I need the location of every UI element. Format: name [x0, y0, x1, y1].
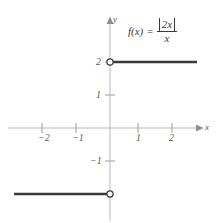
- formula-denominator: x: [162, 32, 171, 44]
- axes-group: [8, 17, 204, 222]
- open-endpoint-upper: [107, 59, 113, 65]
- y-tick-label--1: −1: [90, 156, 102, 166]
- absolute-value-bars: 2x: [159, 19, 175, 30]
- function-graph-figure: −2 −1 1 2 2 1 −1 x y f(x) = 2x x: [0, 0, 220, 223]
- y-axis-label: y: [113, 15, 117, 24]
- formula-numerator: 2x: [157, 19, 177, 31]
- x-axis-label: x: [205, 123, 209, 132]
- x-tick-label-1: 1: [136, 133, 141, 143]
- formula-equals-sign: =: [146, 26, 153, 37]
- y-tick-label-2: 2: [96, 57, 101, 67]
- function-formula: f(x) = 2x x: [128, 19, 177, 44]
- plot-canvas: [0, 0, 220, 223]
- y-tick-label-1: 1: [96, 90, 101, 100]
- formula-fraction: 2x x: [157, 19, 177, 44]
- x-tick-label--1: −1: [72, 133, 84, 143]
- x-axis-arrowhead: [196, 124, 204, 131]
- x-tick-label--2: −2: [38, 133, 50, 143]
- x-tick-label-2: 2: [169, 133, 174, 143]
- formula-left-side: f(x): [128, 26, 143, 37]
- open-endpoint-lower: [107, 191, 113, 197]
